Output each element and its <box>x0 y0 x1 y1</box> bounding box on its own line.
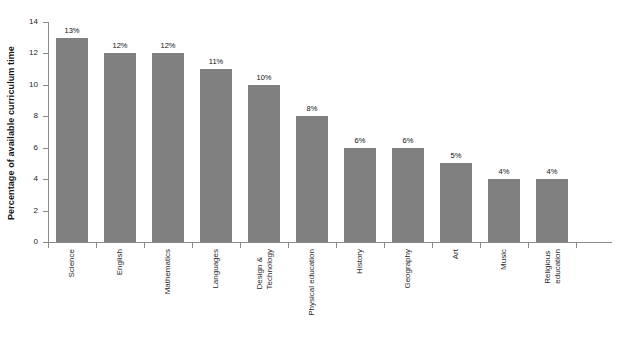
x-axis-label-line: English <box>115 249 124 275</box>
bar <box>200 69 232 242</box>
x-axis-tick <box>192 243 193 248</box>
x-axis-tick <box>384 243 385 248</box>
y-axis-tick-label: 0 <box>0 237 38 246</box>
x-axis-tick <box>432 243 433 248</box>
bar-value-label: 10% <box>240 73 288 82</box>
bar-value-label: 12% <box>96 41 144 50</box>
x-axis-label-line: education <box>552 249 562 284</box>
x-axis-label-line: Technology <box>264 249 274 289</box>
x-axis-label-line: Music <box>499 249 508 270</box>
x-axis-label-line: Science <box>67 249 76 277</box>
bar <box>344 148 376 242</box>
bar <box>152 53 184 242</box>
x-axis-tick <box>528 243 529 248</box>
x-axis-label-text: Science <box>67 249 77 277</box>
x-axis-label-line: Languages <box>211 249 220 289</box>
bar <box>104 53 136 242</box>
bar-value-label: 4% <box>480 167 528 176</box>
x-axis-tick <box>480 243 481 248</box>
bar <box>440 163 472 242</box>
x-axis-tick <box>144 243 145 248</box>
x-axis-label-text: Art <box>451 249 461 259</box>
x-axis-label-text: Music <box>499 249 509 270</box>
bar-value-label: 13% <box>48 26 96 35</box>
x-axis-tick <box>96 243 97 248</box>
x-axis-label-text: Languages <box>211 249 221 289</box>
y-axis-tick-label: 8 <box>0 111 38 120</box>
x-axis-label-text: English <box>115 249 125 275</box>
x-axis-label: Physical education <box>305 249 319 335</box>
bar-value-label: 4% <box>528 167 576 176</box>
x-axis-label: English <box>113 249 127 335</box>
x-axis-label-line: Physical education <box>307 249 316 316</box>
x-axis-label-text: Mathematics <box>163 249 173 294</box>
bar-value-label: 6% <box>336 136 384 145</box>
x-axis-label: Design &Technology <box>257 249 271 335</box>
y-axis-tick-label: 4 <box>0 174 38 183</box>
y-axis-tick-label: 10 <box>0 80 38 89</box>
x-axis-tick <box>240 243 241 248</box>
x-axis-label-text: Religiouseducation <box>543 249 562 284</box>
x-axis-tick <box>576 243 577 248</box>
x-axis-label: Art <box>449 249 463 335</box>
bar-value-label: 6% <box>384 136 432 145</box>
plot-area: 13%12%12%11%10%8%6%6%5%4%4% <box>48 22 612 242</box>
x-axis-label-line: Design & <box>255 257 264 289</box>
x-axis-label-text: History <box>355 249 365 274</box>
bar <box>536 179 568 242</box>
x-axis-tick <box>48 243 49 248</box>
bar-chart: Percentage of available curriculum time … <box>0 0 635 338</box>
x-axis-tick <box>336 243 337 248</box>
x-axis-label-text: Geography <box>403 249 413 289</box>
x-axis-label-line: History <box>355 249 364 274</box>
bar <box>488 179 520 242</box>
y-axis-tick-label: 14 <box>0 17 38 26</box>
bar-value-label: 12% <box>144 41 192 50</box>
y-axis-tick-label: 2 <box>0 206 38 215</box>
bar <box>392 148 424 242</box>
y-axis-tick-label: 12 <box>0 48 38 57</box>
x-axis-label-line: Mathematics <box>163 249 172 294</box>
x-axis-label-line: Geography <box>403 249 412 289</box>
y-axis-title-text: Percentage of available curriculum time <box>6 46 16 220</box>
x-axis-label-line: Art <box>451 249 460 259</box>
y-axis-tick-label: 6 <box>0 143 38 152</box>
x-axis-label: Religiouseducation <box>545 249 559 335</box>
bar-value-label: 5% <box>432 151 480 160</box>
x-axis-label: Science <box>65 249 79 335</box>
bar <box>248 85 280 242</box>
bar <box>56 38 88 242</box>
bar-value-label: 8% <box>288 104 336 113</box>
bar <box>296 116 328 242</box>
x-axis-label-line: Religious <box>543 251 552 284</box>
x-axis-label-text: Physical education <box>307 249 317 316</box>
x-axis-tick <box>288 243 289 248</box>
x-axis-label: Geography <box>401 249 415 335</box>
x-axis-label-text: Design &Technology <box>255 249 274 289</box>
x-axis-label: Mathematics <box>161 249 175 335</box>
bar-value-label: 11% <box>192 57 240 66</box>
x-axis-label: History <box>353 249 367 335</box>
x-axis-label: Languages <box>209 249 223 335</box>
x-axis-label: Music <box>497 249 511 335</box>
